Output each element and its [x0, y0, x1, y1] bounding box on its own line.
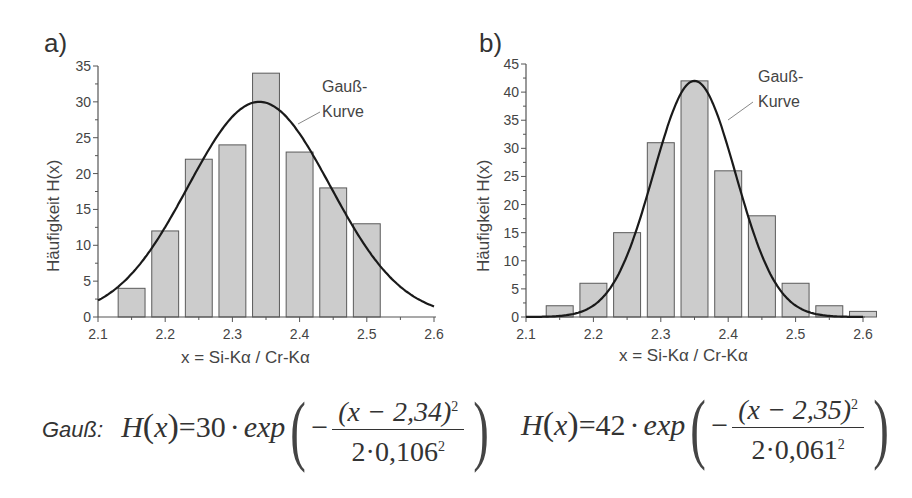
- open-paren: (: [690, 389, 706, 467]
- y-tick-label: 35: [503, 112, 519, 128]
- x-axis-title-b: x = Si-Kα / Cr-Kα: [619, 346, 748, 366]
- histogram-bar: [715, 171, 742, 317]
- formula-equals: =: [179, 410, 196, 443]
- formula-denominator: 2·0,106: [352, 437, 438, 468]
- y-tick-label: 25: [75, 130, 91, 146]
- x-tick-label: 2.1: [516, 326, 536, 342]
- x-tick-label: 2.6: [424, 326, 444, 342]
- formula-amplitude: 30: [196, 410, 226, 443]
- annotation-leader-line: [298, 112, 320, 124]
- y-tick-label: 15: [503, 225, 519, 241]
- histogram-bar: [681, 81, 708, 317]
- formula-fraction: (x − 2,35)22·0,0612: [732, 388, 864, 468]
- y-tick-label: 15: [75, 201, 91, 217]
- x-tick-label: 2.5: [786, 326, 806, 342]
- formula-numerator: (x − 2,35): [738, 394, 851, 425]
- x-tick-label: 2.2: [584, 326, 604, 342]
- open-paren: (: [291, 391, 307, 469]
- formula-prefix: Gauß:: [42, 417, 103, 442]
- y-axis-title-a: Häufigkeit H(x): [44, 160, 64, 272]
- formula-h: H: [121, 410, 143, 443]
- histogram-bar: [253, 73, 280, 317]
- annotation-text-line2: Kurve: [322, 103, 364, 120]
- formula-minus: −: [711, 408, 728, 441]
- annotation-leader-line: [728, 102, 753, 120]
- formula-h: H: [521, 408, 543, 441]
- x-tick-label: 2.3: [223, 326, 243, 342]
- histogram-chart-a: 051015202530352.12.22.32.42.52.6Gauß-Kur…: [0, 0, 456, 350]
- formula-fraction: (x − 2,34)22·0,1062: [332, 390, 464, 470]
- y-tick-label: 30: [503, 140, 519, 156]
- x-tick-label: 2.5: [357, 326, 377, 342]
- y-tick-label: 25: [503, 168, 519, 184]
- y-tick-label: 40: [503, 84, 519, 100]
- formula-dot: ·: [630, 408, 640, 441]
- histogram-bar: [580, 283, 607, 317]
- formula-x: x: [554, 408, 567, 441]
- y-tick-label: 30: [75, 94, 91, 110]
- y-tick-label: 0: [511, 309, 519, 325]
- exponent: 2: [451, 399, 458, 414]
- formula-denominator: 2·0,061: [751, 435, 837, 466]
- x-tick-label: 2.4: [290, 326, 310, 342]
- histogram-bar: [118, 288, 145, 317]
- histogram-bar: [219, 145, 246, 317]
- bars: [546, 81, 876, 317]
- formula-exp: exp: [644, 408, 686, 441]
- x-tick-label: 2.3: [651, 326, 671, 342]
- annotation-text-line1: Gauß-: [322, 78, 367, 95]
- x-tick-label: 2.6: [853, 326, 873, 342]
- y-tick-label: 5: [83, 273, 91, 289]
- histogram-bar: [647, 143, 674, 317]
- y-tick-label: 35: [75, 58, 91, 74]
- formula-minus: −: [311, 410, 328, 443]
- formula-exp: exp: [244, 410, 286, 443]
- y-tick-label: 0: [83, 309, 91, 325]
- x-tick-label: 2.4: [718, 326, 738, 342]
- x-axis-title-a: x = Si-Kα / Cr-Kα: [181, 348, 310, 368]
- y-axis-title-b: Häufigkeit H(x): [474, 160, 494, 272]
- formula-amplitude: 42: [596, 408, 626, 441]
- formula-dot: ·: [230, 410, 240, 443]
- x-tick-label: 2.1: [88, 326, 108, 342]
- formula-equals: =: [579, 408, 596, 441]
- formula-x: x: [154, 410, 167, 443]
- histogram-chart-b: 0510152025303540452.12.22.32.42.52.6Gauß…: [456, 0, 912, 350]
- x-tick-label: 2.2: [155, 326, 175, 342]
- y-tick-label: 20: [75, 166, 91, 182]
- gauss-formula-b: H(x)=42·exp(−(x − 2,35)22·0,0612): [521, 388, 894, 468]
- y-tick-label: 45: [503, 56, 519, 72]
- formula-numerator: (x − 2,34): [338, 396, 451, 427]
- gauss-formula-a: Gauß:H(x)=30·exp(−(x − 2,34)22·0,1062): [42, 390, 494, 470]
- close-paren: ): [873, 389, 889, 467]
- exponent: 2: [838, 437, 845, 452]
- exponent: 2: [851, 397, 858, 412]
- close-paren: ): [473, 391, 489, 469]
- y-tick-label: 10: [503, 253, 519, 269]
- figure: a) 051015202530352.12.22.32.42.52.6Gauß-…: [0, 0, 912, 498]
- histogram-bar: [353, 224, 380, 317]
- annotation-text-line2: Kurve: [758, 93, 800, 110]
- annotation-text-line1: Gauß-: [758, 68, 803, 85]
- histogram-bar: [286, 152, 313, 317]
- exponent: 2: [438, 439, 445, 454]
- y-tick-label: 20: [503, 197, 519, 213]
- y-tick-label: 10: [75, 237, 91, 253]
- y-tick-label: 5: [511, 281, 519, 297]
- histogram-bar: [782, 283, 809, 317]
